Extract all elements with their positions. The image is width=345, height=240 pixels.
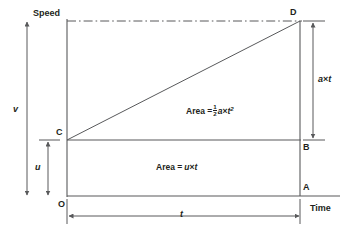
dimension-label-at-t: t [328, 74, 331, 84]
vertex-label-A: A [303, 183, 310, 192]
area-label-triangle-prefix: Area = [186, 106, 212, 116]
area-label-triangle-exponent: 2 [230, 105, 233, 112]
vertex-label-D: D [290, 8, 297, 17]
x-axis-label-time: Time [310, 204, 331, 213]
speed-time-graph-diagram: Speed Time D C B A O v u a×t t Area =12a… [0, 0, 345, 240]
speed-line-CD [67, 21, 300, 140]
dimension-label-v: v [13, 105, 18, 114]
y-axis-label-speed: Speed [33, 9, 60, 18]
vertex-label-O: O [58, 200, 65, 209]
area-label-rectangle: Area =u×t [156, 163, 197, 172]
vertex-label-B: B [303, 143, 310, 152]
dimension-label-t: t [180, 210, 183, 219]
vertex-label-C: C [56, 128, 63, 137]
fraction-denominator: 2 [213, 111, 217, 117]
area-label-rectangle-t: t [194, 162, 197, 172]
area-label-triangle-fraction: 12 [213, 104, 217, 118]
dimension-label-u: u [35, 163, 41, 172]
area-label-rectangle-prefix: Area = [156, 162, 182, 172]
dimension-label-at: a×t [318, 75, 331, 84]
diagram-canvas [0, 0, 345, 240]
area-label-triangle: Area =12a×t2 [186, 104, 234, 118]
